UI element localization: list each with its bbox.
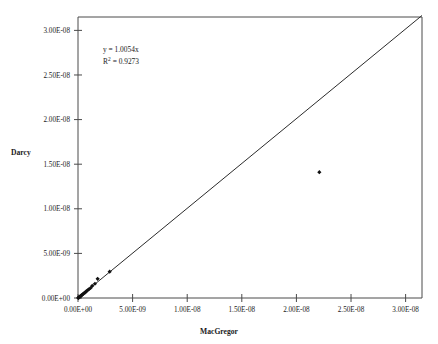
scatter-chart: 0.00E+005.00E-091.00E-081.50E-082.00E-08… [0,0,438,344]
x-tick-label: 2.00E-08 [283,306,310,314]
x-tick-label: 5.00E-09 [119,306,146,314]
r-superscript: 2 [108,56,111,62]
r-value: = 0.9273 [113,57,140,66]
y-tick-label: 5.00E-09 [43,250,70,258]
trendline-equation-label: y = 1.0054x [103,45,139,54]
y-axis-title: Darcy [11,148,31,157]
x-tick-label: 0.00E+00 [64,306,93,314]
y-tick-label: 3.00E-08 [43,27,70,35]
x-tick-label: 1.50E-08 [229,306,256,314]
x-tick-label: 2.50E-08 [338,306,365,314]
y-tick-label: 1.00E-08 [43,205,70,213]
chart-background [0,0,438,344]
x-axis-title: MacGregor [200,327,238,336]
x-tick-label: 1.00E-08 [174,306,201,314]
chart-canvas: 0.00E+005.00E-091.00E-081.50E-082.00E-08… [0,0,438,344]
y-tick-label: 1.50E-08 [43,161,70,169]
x-tick-label: 3.00E-08 [392,306,419,314]
y-tick-label: 0.00E+00 [42,295,71,303]
y-tick-label: 2.00E-08 [43,116,70,124]
y-tick-label: 2.50E-08 [43,72,70,80]
